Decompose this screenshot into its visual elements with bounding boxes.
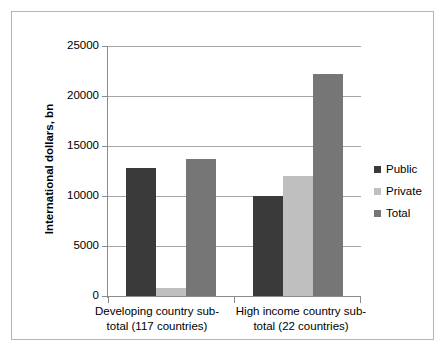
y-axis-tick-label: 0 [39, 290, 99, 302]
y-axis-tick [102, 196, 108, 197]
y-axis-tick [102, 96, 108, 97]
x-axis-category-label: Developing country sub- total (117 count… [84, 304, 230, 333]
y-axis-tick-label: 10000 [39, 190, 99, 202]
legend-item-total: Total [374, 202, 422, 224]
legend-item-private: Private [374, 180, 422, 202]
legend-label: Public [386, 163, 417, 175]
x-axis-tick [108, 297, 109, 303]
x-axis-tick [360, 297, 361, 303]
y-axis-tick [102, 246, 108, 247]
bar-total-group-0 [186, 159, 216, 296]
legend-swatch-icon [374, 166, 381, 173]
legend-swatch-icon [374, 210, 381, 217]
legend-item-public: Public [374, 158, 422, 180]
legend-swatch-icon [374, 188, 381, 195]
y-axis-tick-label: 20000 [39, 90, 99, 102]
y-axis-tick-label: 5000 [39, 240, 99, 252]
plot-area: 0500010000150002000025000 [108, 46, 361, 297]
chart-frame: International dollars, bn 05000100001500… [11, 11, 434, 340]
legend-label: Total [386, 207, 410, 219]
x-axis-category-label: High income country sub- total (22 count… [227, 304, 375, 333]
y-axis-tick [102, 46, 108, 47]
y-axis-tick-label: 15000 [39, 140, 99, 152]
bar-public-group-1 [253, 196, 283, 296]
bar-total-group-1 [313, 74, 343, 296]
legend-label: Private [386, 185, 422, 197]
gridline [108, 46, 361, 47]
y-axis-tick-label: 25000 [39, 40, 99, 52]
bar-private-group-1 [283, 176, 313, 296]
bar-public-group-0 [126, 168, 156, 296]
x-axis-tick [234, 297, 235, 303]
y-axis-tick [102, 146, 108, 147]
y-axis-title: International dollars, bn [38, 43, 60, 295]
chart-legend: Public Private Total [374, 158, 422, 224]
bar-private-group-0 [156, 288, 186, 296]
